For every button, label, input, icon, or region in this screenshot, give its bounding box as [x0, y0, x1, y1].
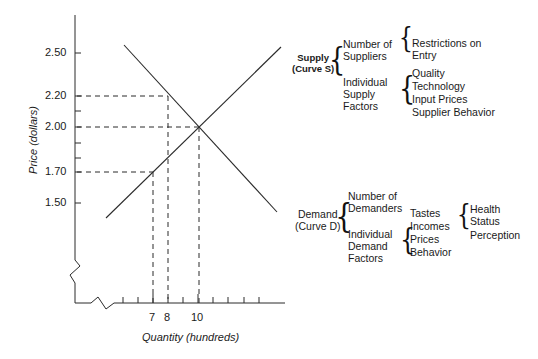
x-tick-label: 7 — [149, 311, 155, 323]
y-axis — [70, 15, 285, 309]
demand-curve — [124, 45, 277, 212]
y-tick-label: 2.50 — [45, 46, 66, 58]
demand-child-tastes: Tastes — [410, 207, 440, 219]
brace-icon: { — [399, 24, 413, 52]
supply-branch-individual: Individual Supply Factors — [343, 76, 387, 112]
supply-branch-number: Number of Suppliers — [343, 38, 392, 62]
x-axis-ticks — [123, 294, 259, 303]
tastes-children: Health Status Perception — [470, 203, 520, 241]
supply-root-label: Supply (Curve S) — [292, 52, 334, 74]
demand-branch-individual: Individual Demand Factors — [348, 228, 392, 264]
supply-curve — [106, 47, 281, 218]
y-tick-label: 2.20 — [45, 89, 66, 101]
supply-number-children: Restrictions on Entry — [412, 37, 481, 61]
y-tick-label: 1.70 — [45, 165, 66, 177]
brace-icon: { — [457, 201, 471, 229]
demand-branch-number: Number of Demanders — [348, 190, 402, 214]
y-axis-title: Price (dollars) — [27, 98, 39, 182]
demand-individual-children: Incomes Prices Behavior — [410, 220, 451, 259]
y-tick-label: 1.50 — [45, 196, 66, 208]
y-tick-label: 2.00 — [45, 120, 66, 132]
supply-individual-children: Quality Technology Input Prices Supplier… — [412, 67, 495, 119]
x-tick-label: 10 — [191, 311, 203, 323]
x-tick-label: 8 — [164, 311, 170, 323]
demand-root-label: Demand (Curve D) — [295, 208, 341, 232]
x-axis-title: Quantity (hundreds) — [142, 331, 239, 343]
y-axis-ticks — [75, 53, 81, 203]
dashed-guides — [77, 96, 199, 303]
